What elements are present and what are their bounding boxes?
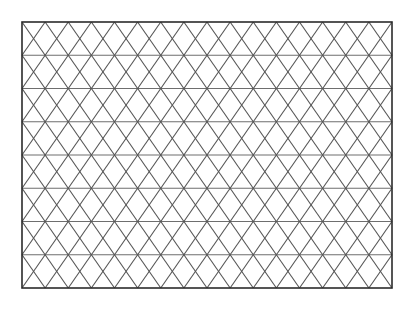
triangular-grid-figure	[0, 0, 414, 310]
figure-canvas	[0, 0, 414, 310]
